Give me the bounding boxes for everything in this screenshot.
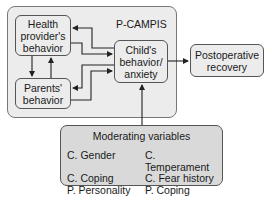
child-label-line: Child's (119, 44, 162, 56)
health-provider-label-line: Health (20, 18, 65, 30)
moderating-item: P. Coping (145, 185, 216, 197)
postoperative-label-line: recovery (195, 61, 259, 73)
postoperative-label-line: Postoperative (195, 49, 259, 61)
child-label-line: behavior/ (119, 56, 162, 68)
health-provider-label-line: provider's (20, 30, 65, 42)
moderating-item: C. Gender (67, 150, 145, 173)
moderating-list: C. Gender C. Temperament C. Coping C. Fe… (67, 150, 216, 196)
moderating-item: C. Coping (67, 173, 145, 185)
parents-node: Parents' behavior (15, 78, 71, 109)
parents-label-line: Parents' (23, 82, 63, 94)
moderating-item: C. Temperament (145, 150, 216, 173)
health-provider-node: Health provider's behavior (15, 15, 71, 56)
child-label-line: anxiety (119, 68, 162, 80)
p-campis-label: P-CAMPIS (116, 18, 167, 30)
parents-label-line: behavior (23, 94, 63, 106)
postoperative-node: Postoperative recovery (190, 44, 264, 77)
moderating-item: C. Fear history (145, 173, 216, 185)
moderating-title: Moderating variables (67, 130, 216, 142)
child-node: Child's behavior/ anxiety (114, 40, 168, 83)
health-provider-label-line: behavior (20, 42, 65, 54)
moderating-item: P. Personality (67, 185, 145, 197)
moderating-variables-node: Moderating variables C. Gender C. Temper… (60, 125, 223, 186)
